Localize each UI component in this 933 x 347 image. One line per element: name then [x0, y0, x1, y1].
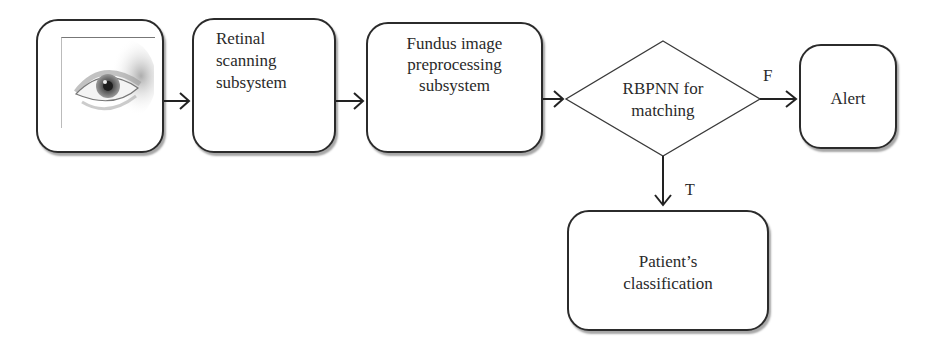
arrow-fundus-to-decision	[543, 91, 563, 107]
edge-label-false: F	[763, 65, 772, 86]
arrow-decision-to-alert	[760, 91, 796, 107]
arrow-eye-to-retinal	[164, 93, 189, 109]
decision-label: RBPNN for matching	[566, 78, 760, 122]
connectors-layer	[0, 0, 933, 347]
arrow-retinal-to-fundus	[336, 93, 363, 109]
arrow-decision-to-patient	[655, 156, 671, 205]
edge-label-true: T	[685, 179, 695, 200]
